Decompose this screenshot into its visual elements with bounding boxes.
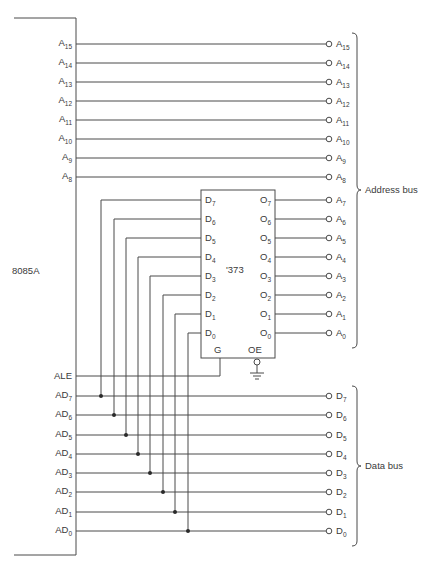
cpu-pin-label: A8 (62, 170, 72, 183)
terminal-icon (326, 41, 332, 47)
latch-q-pin-label: O4 (260, 251, 271, 264)
terminal-icon (326, 136, 332, 142)
terminal-icon (326, 528, 332, 534)
ale-wire (76, 358, 220, 376)
junction-dot (99, 394, 103, 398)
data-bus-output-label: D0 (336, 525, 347, 538)
terminal-icon (326, 235, 332, 241)
address-bus-output-label: A10 (336, 133, 350, 146)
cpu-ad-pin-label: AD7 (55, 389, 72, 402)
ground-icon (250, 359, 264, 379)
cpu-ad-pin-label: AD1 (55, 505, 72, 518)
ale-label: ALE (54, 370, 72, 381)
latch-q-pin-label: O3 (260, 270, 271, 283)
address-bus-output-label: A12 (336, 95, 350, 108)
terminal-icon (326, 197, 332, 203)
latch-g-label: G (214, 344, 221, 355)
junction-dot (124, 433, 128, 437)
address-bus-output-label: A6 (336, 213, 346, 226)
latch-feed-wire (163, 295, 201, 492)
cpu-pin-label: A9 (62, 151, 72, 164)
latch-d-pin-label: D3 (205, 270, 216, 283)
latch-feed-wire (188, 333, 201, 531)
terminal-icon (326, 311, 332, 317)
terminal-icon (326, 79, 332, 85)
address-low-lines: A7A6A5A4A3A2A1A0 (275, 194, 346, 340)
latch-d-pin-label: D1 (205, 308, 216, 321)
latch-label: '373 (226, 264, 244, 275)
terminal-icon (326, 393, 332, 399)
address-bus-output-label: A2 (336, 289, 346, 302)
address-bus-output-label: A1 (336, 308, 346, 321)
latch-d-pin-label: D6 (205, 213, 216, 226)
terminal-icon (326, 470, 332, 476)
data-bus-output-label: D5 (336, 429, 347, 442)
cpu-ad-pin-label: AD5 (55, 428, 72, 441)
cpu-ad-pin-label: AD2 (55, 485, 72, 498)
latch-oe-label: OE (248, 344, 262, 355)
address-bus-output-label: A4 (336, 251, 346, 264)
latch-d-pin-label: D5 (205, 232, 216, 245)
terminal-icon (326, 330, 332, 336)
latch-q-pin-label: O1 (260, 308, 271, 321)
data-bus-output-label: D6 (336, 409, 347, 422)
address-bus-output-label: A13 (336, 76, 350, 89)
terminal-icon (326, 273, 332, 279)
latch-q-pin-label: O2 (260, 289, 271, 302)
data-bus-output-label: D4 (336, 448, 347, 461)
terminal-icon (326, 489, 332, 495)
circuit-diagram: 8085A A15A15A14A14A13A13A12A12A11A11A10A… (0, 0, 425, 565)
terminal-icon (326, 432, 332, 438)
latch-q-pin-label: O5 (260, 232, 271, 245)
latch-q-pin-label: O0 (260, 327, 271, 340)
terminal-icon (326, 292, 332, 298)
terminal-icon (326, 216, 332, 222)
latch-d-pin-label: D7 (205, 194, 216, 207)
cpu-pin-label: A10 (58, 132, 72, 145)
cpu-pin-label: A12 (58, 94, 72, 107)
address-bus-output-label: A3 (336, 270, 346, 283)
terminal-icon (326, 451, 332, 457)
latch-q-pin-label: O7 (260, 194, 271, 207)
data-bus-output-label: D7 (336, 390, 347, 403)
latch-d-pin-label: D4 (205, 251, 216, 264)
address-bus-output-label: A15 (336, 38, 350, 51)
cpu-ad-pin-label: AD0 (55, 524, 72, 537)
terminal-icon (326, 117, 332, 123)
latch-d-pin-label: D2 (205, 289, 216, 302)
address-bus-output-label: A0 (336, 327, 346, 340)
terminal-icon (326, 254, 332, 260)
terminal-icon (326, 174, 332, 180)
address-bus-output-label: A7 (336, 194, 346, 207)
junction-dot (186, 529, 190, 533)
terminal-icon (326, 155, 332, 161)
address-bus-label: Address bus (365, 184, 418, 195)
data-lines: ALEAD7D7AD6D6AD5D5AD4D4AD3D3AD2D2AD1D1AD… (54, 200, 347, 538)
cpu-ad-pin-label: AD6 (55, 408, 72, 421)
address-bus-output-label: A11 (336, 114, 349, 127)
data-bus-brace: Data bus (352, 386, 403, 546)
terminal-icon (326, 412, 332, 418)
address-bus-brace: Address bus (352, 33, 418, 348)
data-bus-output-label: D2 (336, 486, 347, 499)
cpu-ad-pin-label: AD3 (55, 466, 72, 479)
junction-dot (112, 413, 116, 417)
cpu-pin-label: A14 (58, 56, 72, 69)
address-bus-output-label: A8 (336, 171, 346, 184)
address-bus-output-label: A9 (336, 152, 346, 165)
junction-dot (161, 490, 165, 494)
cpu-pin-label: A13 (58, 75, 72, 88)
address-bus-output-label: A5 (336, 232, 346, 245)
latch-feed-wire (138, 257, 201, 454)
terminal-icon (326, 509, 332, 515)
latch-d-pin-label: D0 (205, 327, 216, 340)
cpu-pin-label: A11 (59, 113, 72, 126)
junction-dot (148, 471, 152, 475)
data-bus-output-label: D1 (336, 506, 347, 519)
junction-dot (173, 510, 177, 514)
junction-dot (136, 452, 140, 456)
latch-q-pin-label: O6 (260, 213, 271, 226)
cpu-pin-label: A15 (58, 37, 72, 50)
cpu-label: 8085A (12, 265, 40, 276)
latch-feed-wire (101, 200, 201, 396)
